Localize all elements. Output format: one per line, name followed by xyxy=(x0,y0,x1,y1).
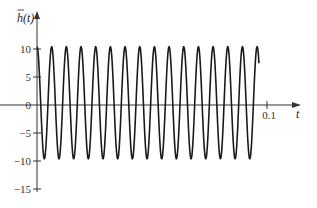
y-axis xyxy=(34,11,40,192)
y-tick-label: −15 xyxy=(14,183,32,195)
y-tick-label: −5 xyxy=(19,127,31,139)
y-axis-label: h(t) xyxy=(17,11,34,25)
y-tick-label: 0 xyxy=(26,99,32,111)
x-ticks: 0.1 xyxy=(262,101,276,121)
x-tick-label: 0.1 xyxy=(262,109,276,121)
y-tick-label: −10 xyxy=(14,155,32,167)
y-tick-label: 10 xyxy=(20,43,32,55)
signal-curve xyxy=(37,47,259,159)
chart: 1050−5−10−15 0.1 h(t) t xyxy=(0,0,317,208)
y-tick-label: 5 xyxy=(26,71,32,83)
x-axis-label: t xyxy=(296,107,300,121)
y-axis-arrow-icon xyxy=(34,11,40,19)
